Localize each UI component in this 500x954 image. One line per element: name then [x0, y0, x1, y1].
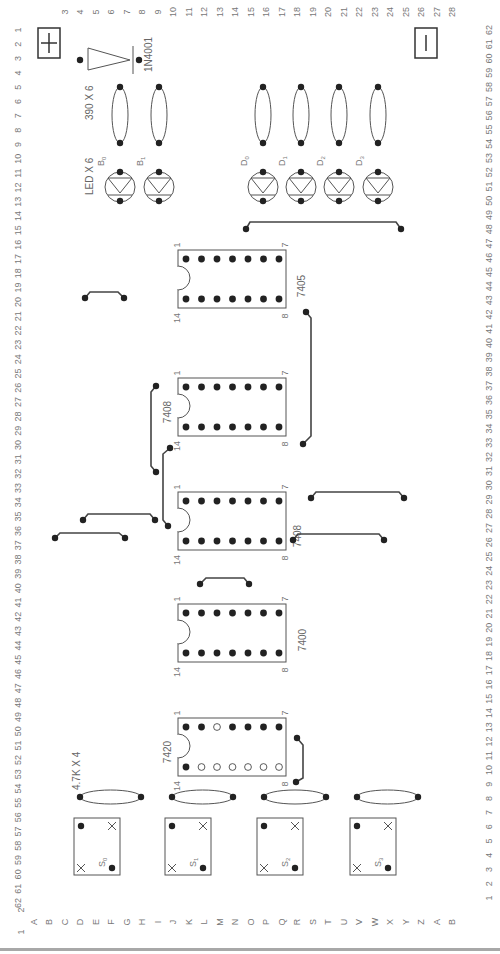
column-number: 2 [16, 907, 26, 912]
negative-rail-terminal [415, 28, 437, 58]
column-letter: X [385, 919, 395, 925]
row-number: 24 [484, 566, 494, 576]
row-number: 25 [13, 368, 23, 378]
row-number: 52 [484, 167, 494, 177]
row-number: 59 [484, 68, 494, 78]
jumper-wire [243, 222, 404, 232]
column-number: 10 [168, 7, 178, 17]
led-label: D3 [354, 156, 365, 167]
ic-pin-7-label: 7 [280, 484, 290, 489]
row-number: 52 [13, 755, 23, 765]
led-label: D0 [239, 156, 250, 167]
row-number: 10 [484, 765, 494, 775]
row-number: 24 [13, 354, 23, 364]
column-number: 27 [432, 7, 442, 17]
row-number: 11 [13, 168, 23, 177]
breadboard-diagram: 1234567891011121314151617181920212223242… [0, 0, 500, 954]
column-letter: E [91, 919, 101, 925]
row-number: 32 [13, 469, 23, 479]
row-number: 43 [13, 626, 23, 636]
switch-s1: S1 [165, 818, 211, 875]
led-d0: D0 [239, 156, 278, 205]
jumper-wire [52, 533, 128, 541]
column-number: 18 [292, 7, 302, 17]
column-number: 22 [354, 7, 364, 17]
right-row-numbers: 6261605958575655545352515049484746454443… [484, 25, 494, 901]
column-number: 23 [370, 7, 380, 17]
jumper-wire [151, 383, 159, 475]
row-number: 1 [13, 27, 23, 32]
ic-pin-14-label: 14 [172, 667, 182, 677]
ic-pin-7-label: 7 [280, 242, 290, 247]
column-number: 12 [199, 7, 209, 17]
row-number: 28 [484, 509, 494, 519]
row-number: 7 [13, 113, 23, 118]
row-number: 44 [484, 281, 494, 291]
switch-s3: S3 [350, 818, 396, 875]
row-number: 49 [484, 210, 494, 220]
column-number: 20 [323, 7, 333, 17]
diode-1n4001: 1N4001 [77, 37, 154, 74]
row-number: 7 [484, 810, 494, 815]
row-number: 21 [484, 608, 494, 618]
row-number: 55 [484, 125, 494, 135]
column-letter: H [137, 919, 147, 926]
resistor-390 [112, 84, 128, 146]
row-number: 17 [484, 665, 494, 675]
column-letter: A [432, 919, 442, 925]
row-number: 42 [13, 612, 23, 622]
led-group-label: LED X 6 [84, 157, 95, 195]
row-number: 40 [13, 583, 23, 593]
row-number: 46 [13, 669, 23, 679]
row-number: 39 [484, 352, 494, 362]
row-number: 22 [484, 594, 494, 604]
switch-label: S0 [97, 857, 108, 867]
ic-7400: 178147400 [172, 596, 308, 677]
top-column-numbers: 3456789101112131415161718192021222324252… [60, 7, 457, 17]
resistor-4-7k [77, 790, 144, 804]
row-number: 26 [484, 537, 494, 547]
row-number: 13 [484, 722, 494, 732]
led-label: D2 [315, 156, 326, 167]
column-number: 24 [385, 7, 395, 17]
row-number: 9 [484, 782, 494, 787]
jumper-wire [82, 292, 127, 301]
row-number: 29 [484, 495, 494, 505]
jumper-wire [197, 578, 252, 587]
ic-part-label: 7420 [162, 740, 173, 763]
row-number: 43 [484, 295, 494, 305]
row-number: 2 [484, 881, 494, 886]
ic-pin-8-label: 8 [280, 555, 290, 560]
row-number: 39 [13, 569, 23, 579]
row-number: 38 [13, 555, 23, 565]
ic-7408: 178147408 [162, 370, 290, 451]
ic-pin-8-label: 8 [280, 667, 290, 672]
resistor-390 [331, 84, 347, 146]
resistor-4-7k-label: 4.7K X 4 [71, 751, 82, 790]
column-letter: T [323, 919, 333, 925]
row-number: 9 [13, 142, 23, 147]
resistor-390 [151, 84, 167, 146]
column-number: 14 [230, 7, 240, 17]
row-number: 6 [13, 99, 23, 104]
jumper-wire [290, 534, 387, 543]
column-letter: M [215, 918, 225, 926]
column-letter: Q [277, 918, 287, 925]
row-number: 12 [13, 182, 23, 192]
column-letter: F [106, 919, 116, 925]
row-number: 58 [13, 841, 23, 851]
row-number: 20 [484, 623, 494, 633]
column-number: 3 [60, 9, 70, 14]
led-b1: B1 [135, 156, 174, 204]
row-number: 3 [13, 56, 23, 61]
row-number: 36 [484, 395, 494, 405]
jumper-wire [293, 735, 303, 785]
ic-pin-7-label: 7 [280, 710, 290, 715]
resistor-4-7k [261, 790, 329, 804]
column-letter: J [168, 920, 178, 925]
row-number: 20 [13, 297, 23, 307]
row-number: 12 [484, 736, 494, 746]
row-number: 15 [484, 694, 494, 704]
switch-label: S3 [373, 857, 384, 867]
ic-7408: 178147408 [172, 484, 303, 565]
